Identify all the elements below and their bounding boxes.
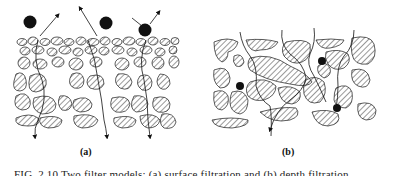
trapped-particle-dot — [333, 104, 341, 112]
particle-dot — [139, 24, 152, 37]
bounce-arrow — [80, 8, 97, 36]
bounce-arrow — [40, 15, 58, 36]
trapped-particle-dot — [236, 82, 244, 90]
particle-dot — [100, 17, 113, 30]
panel-a-label: (a) — [80, 146, 92, 157]
trapped-particle-dot — [318, 57, 326, 65]
particle-dot — [24, 16, 37, 29]
panel-b-filter-medium — [212, 37, 376, 128]
panel-b-label: (b) — [282, 146, 294, 157]
filter-diagram — [0, 0, 393, 176]
panel-a-filter-medium — [14, 37, 179, 128]
bounce-arrow — [150, 12, 159, 24]
figure-caption: FIG. 2.10 Two filter models: (a) surface… — [14, 168, 349, 176]
